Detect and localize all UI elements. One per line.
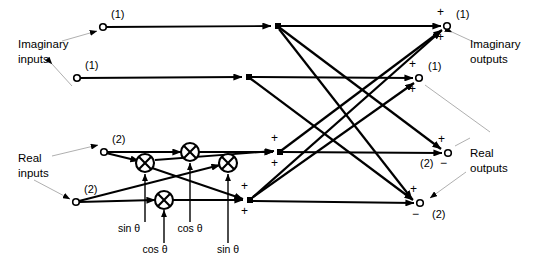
label-imaginary-output-2: (1) xyxy=(428,60,441,72)
tap-real1-to-sin-mult xyxy=(106,153,139,161)
sum-node-real-lower xyxy=(247,197,253,203)
plus-imag-out-2-bottom: + xyxy=(409,82,416,96)
label-imaginary-input-1: (1) xyxy=(111,8,124,20)
plus-sum-upper-bottom: + xyxy=(271,156,278,170)
imaginary-inputs-label-line2: inputs xyxy=(18,53,49,65)
label-real-input-1: (2) xyxy=(112,133,125,145)
label-imaginary-output-1: (1) xyxy=(456,8,469,20)
imaginary-inputs-label-line1: Imaginary xyxy=(18,38,69,50)
imaginary-outputs-label-line1: Imaginary xyxy=(470,38,521,50)
node-imaginary-output-2[interactable] xyxy=(416,75,423,82)
rail-real-1-c xyxy=(282,152,442,153)
label-real-output-2: (2) xyxy=(432,208,445,220)
plus-sum-upper-top: + xyxy=(271,131,278,145)
multiplier-sin-theta-upper xyxy=(136,154,154,172)
imaginary-outputs-label-line2: outputs xyxy=(470,53,508,65)
butterfly-cross-links xyxy=(251,28,442,200)
node-imaginary-input-2[interactable] xyxy=(74,75,81,82)
branch-node-imag-2 xyxy=(246,74,252,80)
plus-real-out-1: + xyxy=(438,132,445,146)
plus-sum-lower-top: + xyxy=(241,179,248,193)
coefficient-labels: sin θ cos θ cos θ sin θ xyxy=(118,222,239,255)
label-real-input-2: (2) xyxy=(84,183,97,195)
label-real-output-1: (2) xyxy=(420,157,433,169)
plus-imag-out-2-top: + xyxy=(409,57,416,71)
node-real-output-2[interactable] xyxy=(417,200,424,207)
minus-real-out-2: − xyxy=(412,207,419,221)
rail-real-2-c xyxy=(252,201,414,203)
real-outputs-label-line1: Real xyxy=(470,147,494,159)
node-real-input-2[interactable] xyxy=(73,199,80,206)
real-outputs-label-line2: outputs xyxy=(470,162,508,174)
coef-sin-theta-1: sin θ xyxy=(118,222,140,234)
leader-imaginary-out-2 xyxy=(425,85,490,132)
plus-sum-lower-bottom: + xyxy=(241,204,248,218)
coef-cos-theta-2: cos θ xyxy=(142,243,167,255)
leader-real-out-2 xyxy=(430,172,466,198)
callout-leaders xyxy=(34,31,490,199)
leader-real-in-1 xyxy=(52,145,98,156)
cross-imag1-to-real-out-1 xyxy=(280,28,441,149)
label-imaginary-input-2: (1) xyxy=(85,59,98,71)
rail-imag-1-left xyxy=(106,26,271,27)
leader-imaginary-in-2 xyxy=(52,64,72,86)
real-inputs-label-line1: Real xyxy=(18,152,42,164)
minus-real-out-1: − xyxy=(440,156,447,170)
real-inputs-label-line2: inputs xyxy=(18,167,49,179)
signal-flow-diagram: (1) (1) (2) (2) (1) (1) (2) (2) + + + + … xyxy=(0,0,540,268)
multiplier-cos-theta-lower xyxy=(155,191,173,209)
rail-imag-2-left xyxy=(80,77,242,78)
node-imaginary-input-1[interactable] xyxy=(100,24,107,31)
figure-canvas: (1) (1) (2) (2) (1) (1) (2) (2) + + + + … xyxy=(0,0,540,268)
leader-real-out-1 xyxy=(455,138,470,146)
multiplier-sin-theta-right xyxy=(219,154,237,172)
branch-node-imag-1 xyxy=(275,23,281,29)
rail-real-2-a xyxy=(79,200,155,202)
plus-imag-out-1-bottom: + xyxy=(437,30,444,44)
sum-node-real-upper xyxy=(277,149,283,155)
multiplier-cos-theta-upper xyxy=(181,143,199,161)
multiplier-taps xyxy=(79,151,274,201)
horizontal-rails xyxy=(79,26,442,203)
node-real-input-1[interactable] xyxy=(101,149,108,156)
leader-real-in-2 xyxy=(34,180,70,199)
coef-cos-theta-1: cos θ xyxy=(177,222,202,234)
plus-real-out-2: + xyxy=(410,182,417,196)
node-imaginary-output-1[interactable] xyxy=(444,23,451,30)
coef-sin-theta-2: sin θ xyxy=(217,243,239,255)
plus-imag-out-1-top: + xyxy=(437,5,444,19)
